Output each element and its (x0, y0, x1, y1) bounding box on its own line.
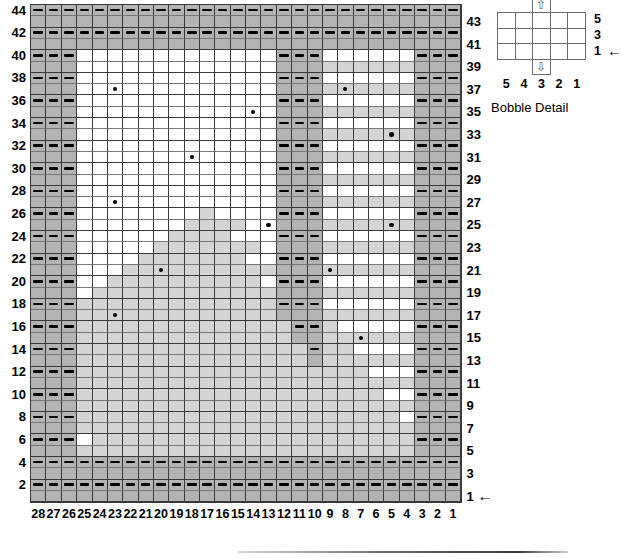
chart-cell (246, 377, 262, 389)
chart-cell (92, 366, 108, 378)
chart-cell (445, 377, 461, 389)
purl-dash-symbol (433, 99, 443, 102)
chart-cell (307, 264, 323, 276)
chart-cell (153, 208, 169, 220)
chart-cell (353, 38, 369, 50)
chart-cell (384, 208, 400, 220)
purl-dash-symbol (33, 212, 43, 215)
chart-cell (215, 208, 231, 220)
purl-dash-symbol (295, 31, 305, 34)
row-label-right: 29 (467, 173, 481, 186)
chart-cell (77, 208, 93, 220)
chart-cell (138, 61, 154, 73)
purl-dash-symbol (356, 483, 366, 486)
chart-cell (399, 163, 415, 175)
chart-cell (384, 106, 400, 118)
chart-cell (107, 389, 123, 401)
row-label-left: 38 (0, 71, 26, 84)
purl-dash-symbol (49, 393, 59, 396)
chart-cell (123, 276, 139, 288)
chart-cell (292, 287, 308, 299)
chart-cell (415, 151, 431, 163)
chart-cell (31, 400, 47, 412)
chart-cell (199, 185, 215, 197)
chart-cell (384, 423, 400, 435)
chart-cell (169, 50, 185, 62)
chart-cell (153, 219, 169, 231)
chart-cell (123, 151, 139, 163)
chart-cell (215, 151, 231, 163)
chart-cell (368, 468, 384, 480)
chart-cell (276, 197, 292, 209)
chart-cell (123, 140, 139, 152)
chart-cell (430, 332, 446, 344)
purl-dash-symbol (433, 144, 443, 147)
chart-cell (92, 38, 108, 50)
chart-cell (307, 219, 323, 231)
purl-dash-symbol (33, 54, 43, 57)
chart-cell (384, 445, 400, 457)
purl-dash-symbol (279, 303, 289, 306)
chart-cell (292, 490, 308, 502)
purl-dash-symbol (433, 31, 443, 34)
chart-cell (230, 423, 246, 435)
chart-cell (261, 344, 277, 356)
chart-cell (338, 434, 354, 446)
chart-cell (77, 344, 93, 356)
chart-cell (123, 197, 139, 209)
chart-cell (292, 434, 308, 446)
chart-cell (322, 344, 338, 356)
chart-cell (384, 253, 400, 265)
chart-cell (399, 400, 415, 412)
chart-cell (61, 197, 77, 209)
chart-cell (368, 208, 384, 220)
chart-cell (92, 468, 108, 480)
purl-dash-symbol (417, 370, 427, 373)
chart-cell (199, 445, 215, 457)
chart-cell (322, 95, 338, 107)
chart-cell (215, 344, 231, 356)
purl-dash-symbol (448, 77, 458, 80)
row-label-right: 19 (467, 286, 481, 299)
row-label-left: 40 (0, 49, 26, 62)
purl-dash-symbol (448, 325, 458, 328)
chart-cell (246, 84, 262, 96)
chart-cell (153, 276, 169, 288)
chart-cell (199, 434, 215, 446)
chart-cell (215, 264, 231, 276)
chart-cell (445, 16, 461, 28)
chart-cell (230, 106, 246, 118)
chart-cell (169, 118, 185, 130)
chart-cell (368, 61, 384, 73)
chart-cell (415, 377, 431, 389)
chart-cell (169, 84, 185, 96)
chart-cell (353, 242, 369, 254)
chart-cell (153, 16, 169, 28)
chart-cell (261, 185, 277, 197)
chart-cell (445, 129, 461, 141)
chart-cell (307, 310, 323, 322)
row-label-left: 30 (0, 162, 26, 175)
chart-cell (292, 389, 308, 401)
chart-cell (77, 411, 93, 423)
chart-cell (230, 298, 246, 310)
chart-cell (399, 129, 415, 141)
chart-cell (307, 355, 323, 367)
purl-dash-symbol (310, 483, 320, 486)
chart-cell (46, 61, 62, 73)
chart-cell (353, 219, 369, 231)
chart-cell (215, 231, 231, 243)
chart-cell (215, 468, 231, 480)
chart-cell (169, 174, 185, 186)
purl-dash-symbol (49, 77, 59, 80)
chart-cell (261, 310, 277, 322)
chart-cell (169, 242, 185, 254)
chart-cell (199, 219, 215, 231)
purl-dash-symbol (417, 438, 427, 441)
chart-cell (246, 434, 262, 446)
chart-cell (77, 50, 93, 62)
chart-cell (430, 38, 446, 50)
chart-cell (353, 197, 369, 209)
purl-dash-symbol (64, 212, 74, 215)
chart-cell (61, 242, 77, 254)
